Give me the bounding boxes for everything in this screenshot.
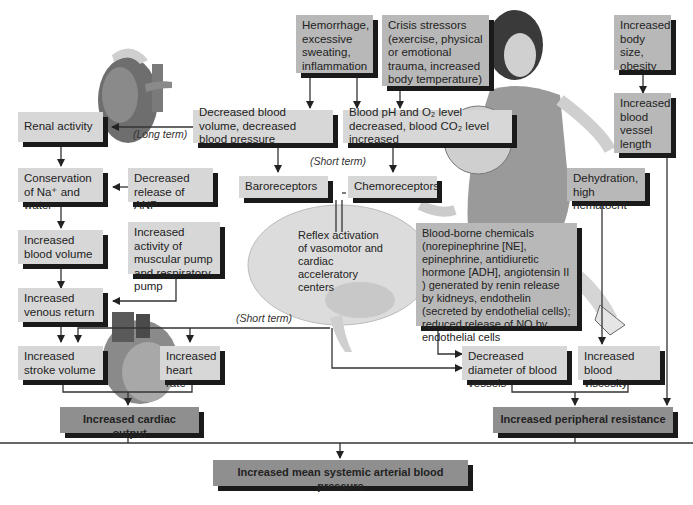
mean-arterial-pressure-box: Increased mean systemic arterial blood p…: [213, 460, 468, 486]
renal-activity-box: Renal activity: [18, 112, 103, 142]
vessel-length-box: Increased blood vessel length: [614, 93, 671, 153]
decreased-anp-box: Decreased release of ANP: [128, 168, 213, 202]
conservation-box: Conservation of Na⁺ and water: [18, 168, 103, 202]
short-term-label-top: (Short term): [310, 155, 366, 167]
body-size-box: Increased body size, obesity: [614, 15, 671, 70]
blood-viscosity-box: Increased blood viscosity: [578, 346, 660, 380]
stroke-volume-box: Increased stroke volume: [18, 346, 103, 380]
increased-blood-volume-box: Increased blood volume: [18, 230, 103, 264]
reflex-activation-text: Reflex activation of vasomotor and cardi…: [298, 229, 390, 294]
chemoreceptors-box: Chemoreceptors: [348, 176, 437, 198]
heart-rate-box: Increased heart rate: [160, 346, 220, 380]
decreased-blood-volume-box: Decreased blood volume, decreased blood …: [193, 110, 333, 143]
crisis-stressors-box: Crisis stressors (exercise, physical or …: [382, 15, 489, 86]
baroreceptors-box: Baroreceptors: [239, 176, 328, 198]
cardiac-output-box: Increased cardiac output: [60, 407, 199, 433]
decreased-diameter-box: Decreased diameter of blood vessels: [462, 346, 567, 380]
venous-return-box: Increased venous return: [18, 288, 103, 322]
peripheral-resistance-box: Increased peripheral resistance: [493, 407, 673, 433]
hemorrhage-box: Hemorrhage, excessive sweating, inflamma…: [296, 15, 373, 73]
blood-borne-chemicals-box: Blood-borne chemicals (norepinephrine [N…: [416, 223, 577, 326]
long-term-label: (Long term): [133, 128, 187, 140]
short-term-label-bottom: (Short term): [236, 312, 292, 324]
blood-ph-box: Blood pH and O₂ level decreased, blood C…: [343, 110, 512, 143]
muscular-pump-box: Increased activity of muscular pump and …: [128, 222, 220, 274]
dehydration-box: Dehydration, high hematocrit: [567, 168, 645, 201]
